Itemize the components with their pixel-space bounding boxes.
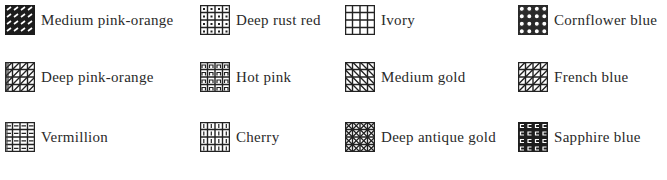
- legend-label: Medium gold: [381, 69, 466, 86]
- legend-label: Deep pink-orange: [41, 69, 154, 86]
- legend-item-hot-pink: Hot pink: [200, 61, 291, 93]
- legend-label: Deep antique gold: [381, 129, 496, 146]
- legend-label: Vermillion: [41, 129, 108, 146]
- grid-diagonal-pattern-icon: [345, 62, 375, 92]
- legend-item-deep-antique-gold: Deep antique gold: [345, 121, 496, 153]
- grid-antidiagonal-pattern-icon: [518, 62, 548, 92]
- bar-grid-pattern-icon: [200, 122, 230, 152]
- legend-label: Hot pink: [236, 69, 291, 86]
- legend-item-cornflower-blue: Cornflower blue: [518, 4, 657, 36]
- legend-label: Ivory: [381, 12, 415, 29]
- legend-item-deep-rust-red: Deep rust red: [200, 4, 321, 36]
- legend-item-medium-pink-orange: Medium pink-orange: [5, 4, 173, 36]
- legend-item-medium-gold: Medium gold: [345, 61, 466, 93]
- legend-item-ivory: Ivory: [345, 4, 415, 36]
- arch-grid-pattern-icon: [200, 62, 230, 92]
- legend-label: Deep rust red: [236, 12, 321, 29]
- plain-grid-pattern-icon: [345, 5, 375, 35]
- legend-item-sapphire-blue: Sapphire blue: [518, 121, 641, 153]
- diagonal-dash-pattern-icon: [5, 5, 35, 35]
- circle-grid-pattern-icon: [518, 5, 548, 35]
- legend-item-deep-pink-orange: Deep pink-orange: [5, 61, 154, 93]
- legend-label: Cornflower blue: [554, 12, 657, 29]
- cross-hatch-dense-pattern-icon: [345, 122, 375, 152]
- grid-diagonal-hatch-pattern-icon: [5, 62, 35, 92]
- dash-grid-pattern-icon: [5, 122, 35, 152]
- legend-item-cherry: Cherry: [200, 121, 279, 153]
- legend-item-french-blue: French blue: [518, 61, 629, 93]
- legend-label: Cherry: [236, 129, 279, 146]
- legend-label: French blue: [554, 69, 629, 86]
- legend-label: Medium pink-orange: [41, 12, 173, 29]
- meander-grid-pattern-icon: [518, 122, 548, 152]
- legend-item-vermillion: Vermillion: [5, 121, 108, 153]
- dotted-grid-pattern-icon: [200, 5, 230, 35]
- legend-label: Sapphire blue: [554, 129, 641, 146]
